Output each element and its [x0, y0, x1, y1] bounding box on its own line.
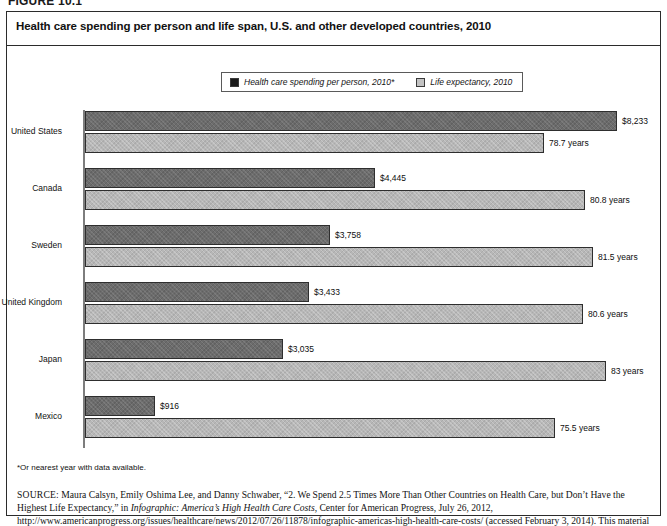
bar-row-spending-mexico: $916 — [85, 396, 179, 416]
bar-row-life-japan: 83 years — [85, 361, 644, 381]
legend-label-spending: Health care spending per person, 2010* — [244, 77, 394, 87]
bar-value-spending-united-states: $8,233 — [622, 116, 648, 126]
bar-row-life-mexico: 75.5 years — [85, 418, 600, 438]
bar-spending-mexico — [85, 396, 155, 416]
bar-life-united-states — [85, 133, 544, 153]
category-label-canada: Canada — [32, 183, 62, 193]
bar-row-life-canada: 80.8 years — [85, 190, 630, 210]
bar-row-spending-japan: $3,035 — [85, 339, 314, 359]
bar-group-japan: Japan $3,035 83 years — [7, 335, 660, 392]
bar-group-sweden: Sweden $3,758 81.5 years — [7, 221, 660, 278]
title-divider — [7, 45, 660, 46]
category-label-japan: Japan — [39, 354, 62, 364]
spending-swatch-icon — [230, 78, 239, 87]
bar-spending-united-kingdom — [85, 282, 309, 302]
bar-life-sweden — [85, 247, 593, 267]
bar-row-spending-united-kingdom: $3,433 — [85, 282, 340, 302]
bar-row-spending-united-states: $8,233 — [85, 111, 648, 131]
source-tag: SOURCE: — [17, 489, 59, 500]
plot-area: United States $8,233 78.7 years Canada $… — [7, 107, 660, 452]
bar-row-spending-sweden: $3,758 — [85, 225, 361, 245]
bar-row-life-united-states: 78.7 years — [85, 133, 589, 153]
bar-value-life-canada: 80.8 years — [590, 195, 630, 205]
source-note: SOURCE: Maura Calsyn, Emily Oshima Lee, … — [17, 488, 653, 526]
category-label-sweden: Sweden — [31, 240, 62, 250]
bar-group-canada: Canada $4,445 80.8 years — [7, 164, 660, 221]
bar-life-mexico — [85, 418, 555, 438]
bar-row-life-sweden: 81.5 years — [85, 247, 638, 267]
legend-item-spending: Health care spending per person, 2010* — [230, 77, 394, 87]
bar-row-life-united-kingdom: 80.6 years — [85, 304, 628, 324]
bar-spending-japan — [85, 339, 283, 359]
bar-value-life-united-kingdom: 80.6 years — [588, 309, 628, 319]
source-text-italic: Infographic: America’s High Health Care … — [131, 502, 315, 513]
bar-value-spending-mexico: $916 — [160, 401, 179, 411]
bar-group-mexico: Mexico $916 75.5 years — [7, 392, 660, 449]
category-label-mexico: Mexico — [35, 411, 62, 421]
category-label-united-kingdom: United Kingdom — [2, 297, 62, 307]
chart-footnote: *Or nearest year with data available. — [17, 463, 146, 472]
chart-legend: Health care spending per person, 2010* L… — [221, 72, 523, 92]
figure-number: FIGURE 10.1 — [8, 0, 82, 8]
bar-value-life-mexico: 75.5 years — [560, 423, 600, 433]
legend-label-life-expectancy: Life expectancy, 2010 — [430, 77, 512, 87]
legend-item-life-expectancy: Life expectancy, 2010 — [416, 77, 512, 87]
chart-title: Health care spending per person and life… — [16, 20, 491, 32]
bar-life-japan — [85, 361, 606, 381]
bar-spending-canada — [85, 168, 375, 188]
bar-value-life-united-states: 78.7 years — [549, 138, 589, 148]
bar-value-spending-united-kingdom: $3,433 — [314, 287, 340, 297]
bar-spending-united-states — [85, 111, 617, 131]
bar-value-spending-sweden: $3,758 — [335, 230, 361, 240]
bar-group-united-states: United States $8,233 78.7 years — [7, 107, 660, 164]
bar-row-spending-canada: $4,445 — [85, 168, 406, 188]
bar-value-life-japan: 83 years — [611, 366, 644, 376]
bar-group-united-kingdom: United Kingdom $3,433 80.6 years — [7, 278, 660, 335]
bar-value-life-sweden: 81.5 years — [598, 252, 638, 262]
bar-value-spending-japan: $3,035 — [288, 344, 314, 354]
bar-life-canada — [85, 190, 585, 210]
bar-life-united-kingdom — [85, 304, 583, 324]
category-label-united-states: United States — [11, 126, 62, 136]
figure-container: Health care spending per person and life… — [6, 11, 661, 516]
bar-spending-sweden — [85, 225, 330, 245]
bar-value-spending-canada: $4,445 — [380, 173, 406, 183]
life-expectancy-swatch-icon — [416, 78, 425, 87]
